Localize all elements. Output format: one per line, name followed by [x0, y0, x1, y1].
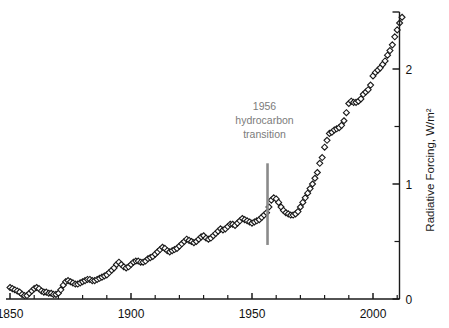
data-point [312, 175, 318, 181]
annotation-line-2: hydrocarbon [235, 114, 294, 126]
data-point [317, 160, 323, 166]
x-tick-label-2000: 2000 [360, 307, 387, 321]
data-point [343, 110, 349, 116]
x-tick-label-1950: 1950 [239, 307, 266, 321]
annotation-layer: 1956 hydrocarbon transition [235, 100, 294, 245]
axes-layer [6, 12, 400, 299]
radiative-forcing-chart: 1956 hydrocarbon transition 1850 1900 19… [0, 0, 449, 328]
chart-canvas: 1956 hydrocarbon transition 1850 1900 19… [0, 0, 449, 328]
data-point [324, 137, 330, 143]
y-axis-title: Radiative Forcing, W/m² [424, 108, 436, 232]
data-point [389, 42, 395, 48]
annotation-line-3: transition [243, 128, 286, 140]
data-point [322, 144, 328, 150]
x-tick-label-1850: 1850 [0, 307, 24, 321]
y-tick-label-0: 0 [406, 293, 413, 307]
annotation-line-1: 1956 [253, 100, 277, 112]
data-points-layer [7, 14, 405, 298]
data-point [314, 170, 320, 176]
data-point [319, 155, 325, 161]
data-point [392, 34, 398, 40]
x-tick-label-1900: 1900 [118, 307, 145, 321]
y-tick-label-2: 2 [406, 63, 413, 77]
y-tick-label-1: 1 [406, 178, 413, 192]
